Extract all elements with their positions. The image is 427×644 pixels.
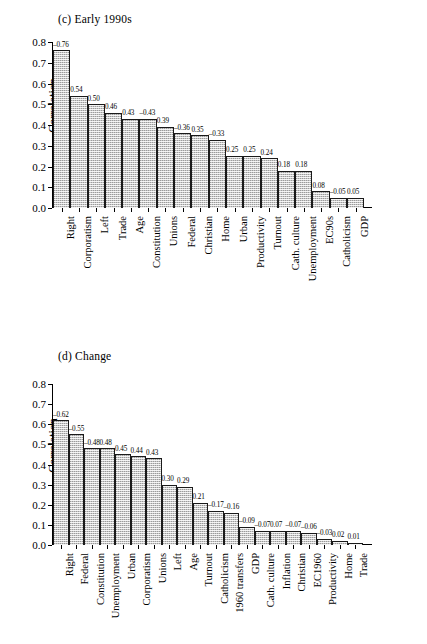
- bar-value-label: 0.05: [347, 189, 359, 196]
- x-tick-mark: [131, 208, 132, 212]
- bar-item: –0.09GDP: [239, 384, 255, 545]
- x-axis-category-text: Corporatism: [82, 216, 93, 269]
- bar-item: –0.36Federal: [174, 42, 191, 208]
- x-tick-mark: [169, 545, 170, 549]
- x-axis-category-text: Age: [134, 216, 145, 234]
- bar-item: –0.17Catholicism: [208, 384, 224, 545]
- bar: [53, 50, 70, 208]
- x-axis-category-text: Catholicism: [219, 553, 230, 604]
- y-tick-mark: [48, 63, 52, 64]
- x-tick-mark: [61, 545, 62, 549]
- y-tick-label: 0.2: [32, 499, 46, 510]
- y-tick-mark: [48, 545, 52, 546]
- x-axis-category-text: Left: [173, 553, 184, 571]
- bar-item: 0.29Age: [177, 384, 193, 545]
- panel-c-title: (c) Early 1990s: [58, 13, 132, 25]
- bar-item: –0.03Productivity: [317, 384, 333, 545]
- bar-item: 0.18Cath. culture: [278, 42, 295, 208]
- bar-item: 0.08EC90s: [312, 42, 329, 208]
- bar-value-label: 0.30: [162, 476, 174, 483]
- bar-item: 0.43Age: [122, 42, 139, 208]
- x-axis-category-text: Turnout: [273, 216, 284, 249]
- panel-d-title: (d) Change: [58, 350, 111, 362]
- x-tick-mark: [148, 208, 149, 212]
- bar-item: 0.43Unions: [146, 384, 162, 545]
- bar-value-label: 0.25: [226, 147, 238, 154]
- x-tick-mark: [278, 545, 279, 549]
- bar-value-label: 0.29: [177, 478, 189, 485]
- bar-value-label: –0.09: [239, 518, 255, 525]
- bar-item: 0.50Left: [88, 42, 105, 208]
- bar-value-label: 0.43: [122, 110, 134, 117]
- bar-value-label: –0.55: [69, 426, 85, 433]
- y-tick-mark: [48, 125, 52, 126]
- y-tick-label: 0.7: [32, 399, 46, 410]
- x-tick-mark: [287, 208, 288, 212]
- x-axis-category-text: Corporatism: [142, 553, 153, 606]
- y-tick-mark: [48, 84, 52, 85]
- x-axis-category-text: Federal: [186, 216, 197, 248]
- x-tick-mark: [293, 545, 294, 549]
- x-tick-mark: [235, 208, 236, 212]
- bar-item: –0.07Cath. culture: [255, 384, 271, 545]
- bar-item: –0.07Christian: [286, 384, 302, 545]
- x-axis-category-text: Unions: [157, 553, 168, 583]
- y-tick-label: 0.0: [32, 540, 46, 551]
- bar-item: –0.05Catholicism: [330, 42, 347, 208]
- bar-value-label: –0.76: [53, 42, 69, 49]
- bar-item: 0.21Turnout: [193, 384, 209, 545]
- x-axis-category-text: Urban: [238, 216, 249, 242]
- x-axis-category-text: Productivity: [255, 216, 266, 268]
- y-tick-mark: [48, 505, 52, 506]
- x-tick-mark: [79, 208, 80, 212]
- bar-value-label: 0.46: [105, 104, 117, 111]
- bar-value-label: 0.07: [270, 522, 282, 529]
- x-axis-category-text: Home: [343, 553, 354, 579]
- x-axis-category-text: Constitution: [152, 216, 163, 268]
- x-tick-mark: [165, 208, 166, 212]
- y-tick-mark: [48, 42, 52, 43]
- x-axis-category-label: GDP: [359, 195, 370, 216]
- bar-item: –0.43Constitution: [139, 42, 156, 208]
- bar-item: 0.25Productivity: [243, 42, 260, 208]
- y-tick-mark: [48, 465, 52, 466]
- x-axis-category-label: Trade: [359, 529, 370, 553]
- bar-series: –0.76Right0.54Corporatism0.50Left0.46Tra…: [53, 42, 364, 208]
- bar-series: –0.62Right–0.55Federal–0.48Constitution0…: [53, 384, 363, 545]
- x-axis-category-text: Right: [65, 216, 76, 239]
- bar-item: –0.62Right: [53, 384, 69, 545]
- bar: [53, 420, 69, 545]
- x-tick-mark: [200, 208, 201, 212]
- bar-value-label: 0.48: [100, 440, 112, 447]
- x-axis-category-text: Productivity: [328, 553, 339, 605]
- x-axis-category-text: Age: [188, 553, 199, 571]
- y-tick-mark: [48, 167, 52, 168]
- bar-item: 0.35Christian: [191, 42, 208, 208]
- x-axis-category-text: Home: [221, 216, 232, 242]
- y-tick-label: 0.4: [32, 120, 46, 131]
- x-axis-category-text: Christian: [297, 553, 308, 592]
- x-axis-category-text: Christian: [204, 216, 215, 255]
- bar-item: 0.18Unemployment: [295, 42, 312, 208]
- x-axis-category-text: EC1960: [312, 553, 323, 587]
- y-tick-label: 0.7: [32, 57, 46, 68]
- x-axis-category-text: GDP: [359, 216, 370, 237]
- y-tick-mark: [48, 187, 52, 188]
- x-axis-category-text: GDP: [250, 553, 261, 574]
- bar-item: 0.25Urban: [226, 42, 243, 208]
- bar-item: 0.54Corporatism: [70, 42, 87, 208]
- x-tick-mark: [340, 545, 341, 549]
- bar-item: –0.76Right: [53, 42, 70, 208]
- x-tick-mark: [217, 208, 218, 212]
- y-tick-label: 0.8: [32, 379, 46, 390]
- bar-value-label: –0.36: [174, 125, 190, 132]
- y-tick-mark: [48, 485, 52, 486]
- bar-value-label: 0.39: [157, 118, 169, 125]
- x-tick-mark: [114, 208, 115, 212]
- bar-value-label: 0.35: [191, 127, 203, 134]
- x-tick-mark: [269, 208, 270, 212]
- bar-item: 0.44Corporatism: [131, 384, 147, 545]
- y-tick-label: 0.0: [32, 203, 46, 214]
- x-axis-category-text: Unemployment: [307, 216, 318, 281]
- bar-value-label: 0.50: [88, 96, 100, 103]
